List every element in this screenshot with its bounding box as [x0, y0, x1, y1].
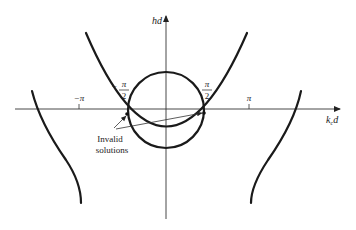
parabola-curve	[86, 33, 247, 127]
arrow-to-left-solution	[114, 116, 126, 128]
dispersion-diagram: hd kcd −π π − π 2 π 2 Invalid solutions	[0, 0, 356, 230]
tick-label-pi: π	[247, 93, 252, 103]
svg-text:2: 2	[122, 91, 127, 101]
svg-text:−: −	[111, 81, 116, 91]
right-intersection-point	[202, 111, 206, 115]
right-branch-curve	[251, 91, 301, 203]
tick-label-neg-pi: −π	[74, 93, 85, 103]
x-axis-label: kcd	[326, 114, 339, 126]
annotation-line-1: Invalid	[97, 134, 123, 144]
left-intersection-point	[125, 112, 129, 116]
left-branch-curve	[32, 91, 81, 203]
svg-text:2: 2	[205, 91, 210, 101]
tick-label-neg-half-pi: − π 2	[111, 79, 129, 101]
annotation-line-2: solutions	[96, 145, 129, 155]
svg-text:π: π	[205, 79, 210, 89]
svg-text:π: π	[122, 79, 127, 89]
y-axis-label: hd	[152, 15, 163, 26]
